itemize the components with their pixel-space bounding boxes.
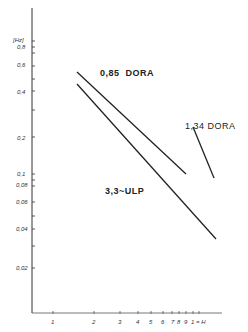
series-label-33-ulp: 3,3~ULP	[105, 186, 144, 196]
series-line-085-dora	[77, 72, 186, 174]
x-tick-label: 3	[118, 319, 122, 325]
y-unit-label: [Hz]	[12, 37, 24, 43]
x-tick-label: 2	[91, 319, 96, 325]
y-tick-label: 0,02	[16, 265, 28, 271]
series-line-33-ulp	[77, 84, 216, 239]
x-ticks	[53, 311, 199, 314]
log-log-chart: [Hz] 0,8 0,6 0,4 0,2 0,1 0,08 0,06 0,04 …	[0, 0, 248, 332]
x-tick-label: 1 = H	[191, 319, 206, 325]
x-tick-label: 9	[184, 319, 188, 325]
y-tick-label: 0,2	[17, 135, 26, 141]
x-tick-label: 5	[149, 319, 153, 325]
x-tick-label: 4	[136, 319, 140, 325]
series-label-085-dora: 0,85 DORA	[100, 68, 154, 78]
y-tick-label: 0,1	[17, 171, 25, 177]
y-tick-label: 0,04	[16, 226, 28, 232]
series-line-134-dora	[193, 127, 214, 178]
y-tick-label: 0,06	[16, 199, 28, 205]
y-tick-label: 0,4	[17, 89, 26, 95]
y-tick-label: 0,08	[16, 182, 28, 188]
y-tick-label: 0,8	[17, 44, 26, 50]
series-label-134-dora: 1,34 DORA	[185, 121, 236, 131]
x-tick-label: 8	[177, 319, 181, 325]
y-tick-label: 0,6	[17, 62, 26, 68]
x-tick-label: 1	[51, 319, 54, 325]
x-tick-label: 7	[171, 319, 175, 325]
x-tick-label: 6	[161, 319, 165, 325]
